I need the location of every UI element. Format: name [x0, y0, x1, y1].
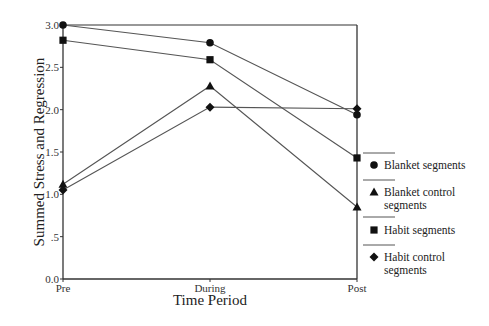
x-tick-label: Post: [348, 282, 367, 294]
triangle-marker-icon: [370, 188, 379, 196]
circle-marker-icon: [206, 39, 214, 47]
diamond-marker-icon: [353, 104, 362, 113]
y-axis-label: Summed Stress and Regression: [31, 57, 47, 246]
series-habit-control-segments: [59, 103, 362, 195]
diamond-marker-icon: [206, 103, 215, 112]
circle-marker-icon: [59, 21, 67, 29]
y-tick-label: 2.0: [45, 104, 59, 116]
y-tick-label: 2.5: [45, 61, 59, 73]
square-marker-icon: [206, 56, 213, 63]
legend-label: Habit control: [384, 251, 445, 263]
series-habit-segments: [59, 37, 360, 162]
x-tick-label: Pre: [56, 282, 71, 294]
y-tick-label: 1.5: [45, 146, 59, 158]
series-line: [63, 107, 357, 190]
legend-label: Blanket segments: [384, 159, 466, 172]
series-line: [63, 25, 357, 115]
y-tick-label: 3.0: [45, 19, 59, 31]
series-blanket-control-segments: [59, 81, 362, 210]
legend: Blanket segmentsBlanket controlsegmentsH…: [363, 153, 466, 277]
series-layer: [59, 21, 362, 210]
triangle-marker-icon: [206, 81, 215, 89]
y-tick-label: .5: [51, 231, 60, 243]
legend-label: Blanket control: [384, 186, 455, 198]
legend-label: Habit segments: [384, 224, 456, 237]
square-marker-icon: [353, 154, 360, 161]
square-marker-icon: [370, 226, 377, 233]
axes: 0.0.51.01.52.02.53.0PreDuringPost: [45, 19, 366, 294]
legend-label-line2: segments: [384, 264, 427, 277]
diamond-marker-icon: [370, 253, 379, 262]
chart-svg: 0.0.51.01.52.02.53.0PreDuringPost Blanke…: [0, 0, 489, 326]
y-tick-label: 1.0: [45, 188, 59, 200]
x-axis-label: Time Period: [173, 292, 248, 308]
square-marker-icon: [59, 37, 66, 44]
legend-label-line2: segments: [384, 199, 427, 212]
circle-marker-icon: [370, 161, 378, 169]
